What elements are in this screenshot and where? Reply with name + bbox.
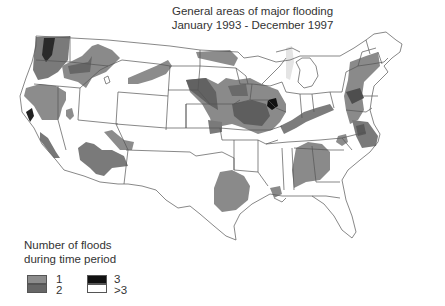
legend-heading-line-2: during time period: [24, 252, 144, 266]
great-salt-lake: [104, 76, 110, 84]
legend-label-more: >3: [114, 285, 127, 296]
legend: Number of floods during time period 1 2 …: [24, 238, 144, 303]
flood-area-sc-spot: [336, 134, 348, 146]
flood-area-nevada-spot: [66, 108, 74, 120]
legend-heading-line-1: Number of floods: [24, 238, 144, 252]
legend-swatch-more: [87, 284, 107, 293]
florida-outline: [274, 196, 340, 202]
legend-items: 1 2 3 >3: [24, 273, 144, 303]
lake-michigan-shade: [286, 46, 294, 80]
flood-area-mid-atlantic: [344, 52, 380, 124]
legend-swatch-1: [27, 275, 47, 284]
flood-area-east-texas: [214, 170, 250, 212]
flood-area-az-north: [104, 130, 134, 150]
flood-area-ohio-river: [280, 104, 334, 134]
title-line-2: January 1993 - December 1997: [60, 18, 445, 32]
legend-swatch-3: [87, 275, 107, 284]
flood-area-ca-core: [26, 108, 34, 122]
map-title: General areas of major flooding January …: [0, 4, 445, 32]
flood-areas: [24, 36, 380, 212]
title-line-1: General areas of major flooding: [60, 4, 445, 18]
flood-area-montana: [128, 60, 172, 84]
flood-area-louisiana: [270, 186, 282, 198]
flood-area-kansas-lower: [208, 120, 222, 134]
flood-area-nd-north: [196, 50, 238, 66]
legend-label-2: 2: [56, 285, 62, 296]
legend-swatch-2: [27, 284, 47, 293]
